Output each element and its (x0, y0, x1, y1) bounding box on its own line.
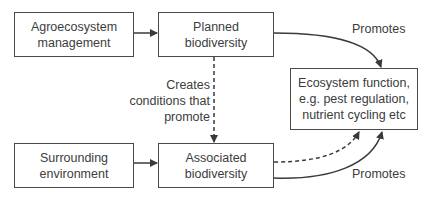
edge-label-promotes-bottom: Promotes (352, 166, 406, 182)
node-label: Surrounding environment (40, 150, 109, 182)
edge-label-creates-conditions: Creates conditions that promote (110, 77, 210, 125)
node-label: Ecosystem function, e.g. pest regulation… (298, 75, 410, 123)
node-label: Associated biodiversity (185, 150, 248, 182)
node-label: Agroecosystem management (31, 19, 117, 51)
node-label: Planned biodiversity (185, 19, 248, 51)
edge-label-promotes-top: Promotes (352, 21, 406, 37)
node-ecosystem-function: Ecosystem function, e.g. pest regulation… (290, 68, 418, 130)
node-agroecosystem-management: Agroecosystem management (14, 12, 134, 57)
diagram-canvas: Agroecosystem management Planned biodive… (0, 0, 428, 197)
edge-planned-to-ecosystem (274, 33, 381, 67)
node-associated-biodiversity: Associated biodiversity (158, 143, 274, 188)
edge-associated-to-ecosystem-dashed (274, 132, 359, 162)
node-planned-biodiversity: Planned biodiversity (158, 12, 274, 57)
node-surrounding-environment: Surrounding environment (14, 143, 134, 188)
